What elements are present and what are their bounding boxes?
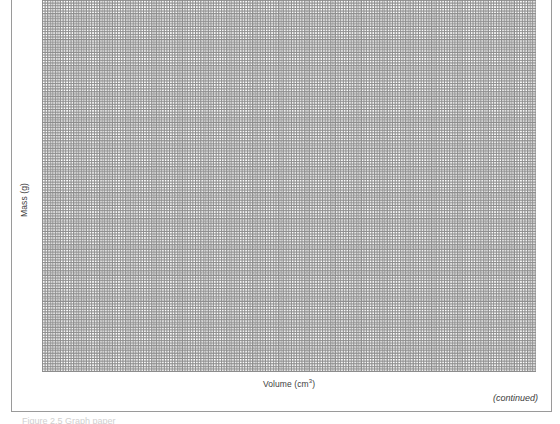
x-axis-title-text: Volume (cm <box>263 379 309 389</box>
x-axis-title: Volume (cm3) <box>42 379 536 389</box>
y-axis-title: Mass (g) <box>17 160 31 240</box>
figure-blank-graph-paper: Mass (g) Volume (cm3) (continued) Figure… <box>0 0 560 424</box>
graph-paper-grid[interactable] <box>42 0 536 372</box>
x-axis-title-suffix: ) <box>312 379 315 389</box>
figure-caption-clipped: Figure 2.5 Graph paper <box>22 416 322 424</box>
continued-note: (continued) <box>493 393 538 403</box>
